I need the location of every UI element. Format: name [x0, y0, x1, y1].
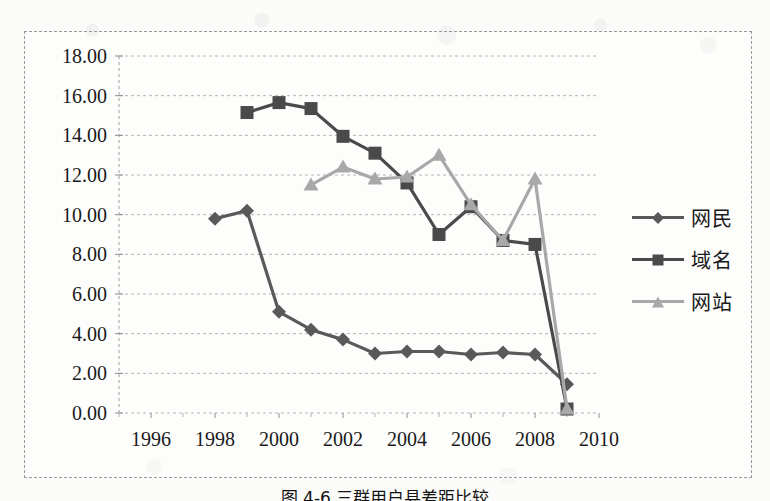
- y-axis-tick-label: 18.00: [62, 45, 107, 67]
- triangle-marker: [528, 171, 543, 184]
- legend-label-wangzhan: 网站: [691, 287, 732, 316]
- x-axis-tick-label: 2004: [387, 428, 427, 450]
- series-line: [247, 103, 567, 409]
- square-marker: [305, 102, 318, 115]
- series-square: [241, 96, 574, 415]
- series-line: [215, 211, 567, 385]
- y-axis-tick-label: 6.00: [72, 283, 107, 305]
- diamond-marker: [336, 333, 350, 347]
- x-axis-tick-label: 2006: [451, 428, 491, 450]
- diamond-marker: [304, 323, 318, 337]
- x-axis-tick-label: 2010: [579, 428, 619, 450]
- y-axis-tick-label: 10.00: [62, 204, 107, 226]
- legend-item-wangmin[interactable]: 网民: [632, 196, 742, 238]
- square-marker: [529, 238, 542, 251]
- diamond-marker: [432, 345, 446, 359]
- x-axis-tick-label: 1998: [195, 428, 235, 450]
- square-marker: [273, 96, 286, 109]
- triangle-marker: [304, 177, 319, 190]
- y-axis-tick-label: 4.00: [72, 323, 107, 345]
- diamond-marker: [208, 212, 222, 226]
- legend-label-wangmin: 网民: [691, 203, 732, 232]
- square-marker: [337, 130, 350, 143]
- series-diamond: [208, 204, 574, 392]
- square-marker: [433, 228, 446, 241]
- series-line: [311, 155, 567, 409]
- x-axis-tick-label: 1996: [131, 428, 171, 450]
- square-marker: [241, 106, 254, 119]
- triangle-marker: [336, 160, 351, 173]
- series-triangle: [304, 148, 575, 415]
- square-marker-icon: [632, 252, 684, 266]
- x-axis-tick-label: 2002: [323, 428, 363, 450]
- legend-item-yuming[interactable]: 域名: [632, 238, 742, 280]
- y-axis-tick-label: 12.00: [62, 164, 107, 186]
- diamond-marker: [272, 305, 286, 319]
- x-axis-tick-label: 2000: [259, 428, 299, 450]
- diamond-marker: [464, 347, 478, 361]
- figure-caption: 图 4-6 三群用户县差距比较: [0, 484, 770, 501]
- diamond-marker: [240, 204, 254, 218]
- diamond-marker: [368, 347, 382, 361]
- square-marker: [369, 147, 382, 160]
- diamond-marker: [400, 345, 414, 359]
- legend-item-wangzhan[interactable]: 网站: [632, 280, 742, 322]
- diamond-marker-icon: [632, 210, 684, 224]
- y-axis-tick-label: 0.00: [72, 402, 107, 424]
- triangle-marker: [432, 148, 447, 161]
- x-axis-tick-label: 2008: [515, 428, 555, 450]
- y-axis-tick-label: 14.00: [62, 124, 107, 146]
- diamond-marker: [496, 346, 510, 360]
- y-axis-tick-label: 16.00: [62, 85, 107, 107]
- legend-label-yuming: 域名: [691, 245, 732, 274]
- chart-legend: 网民 域名 网站: [632, 196, 742, 322]
- triangle-marker-icon: [632, 294, 684, 308]
- y-axis-tick-label: 8.00: [72, 243, 107, 265]
- y-axis-tick-label: 2.00: [72, 362, 107, 384]
